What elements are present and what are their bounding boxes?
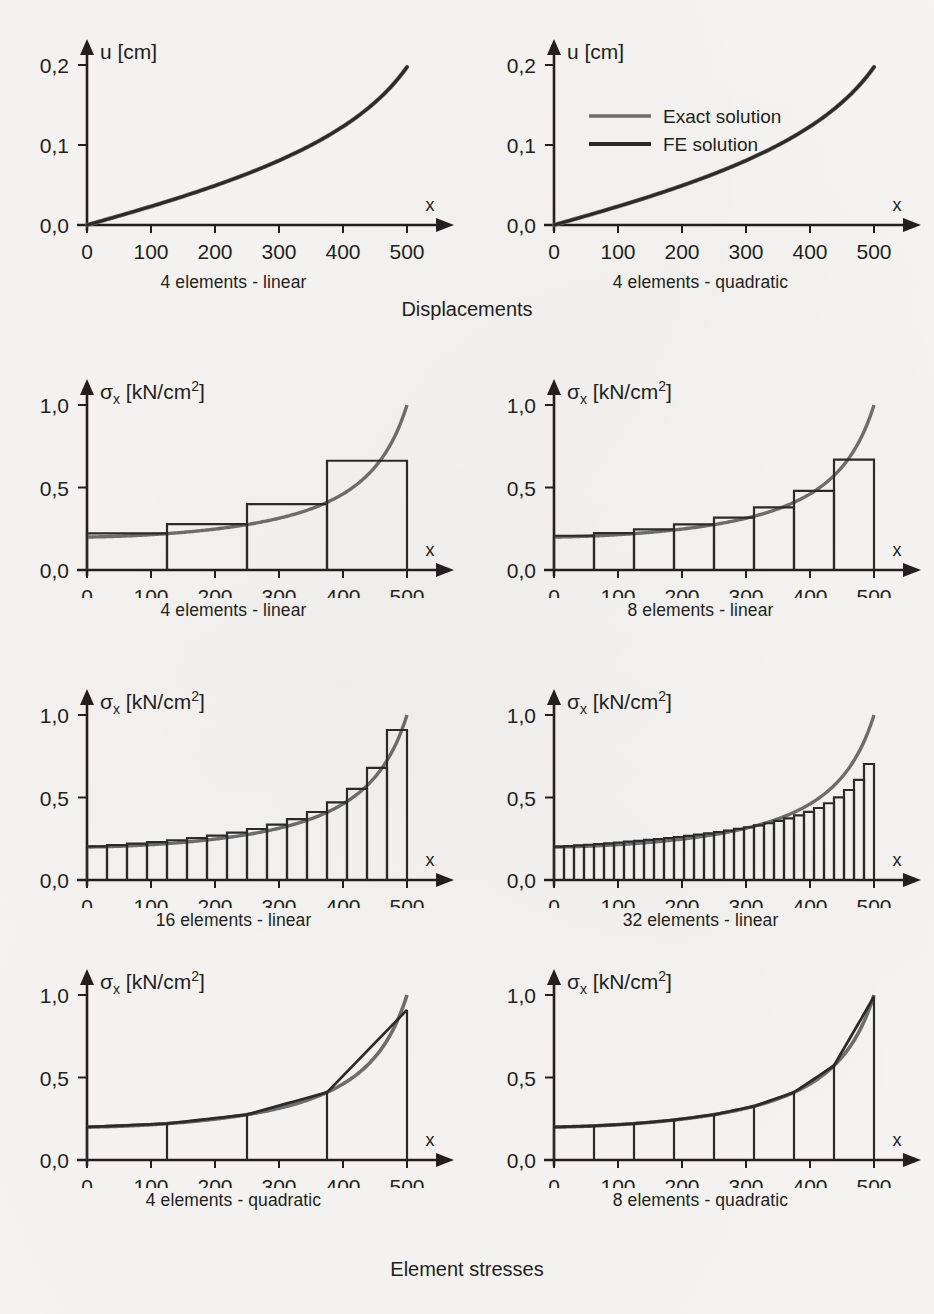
x-tick-label: 0 <box>548 585 560 598</box>
legend: Exact solutionFE solution <box>589 106 781 155</box>
panel-sigma-32-linear: 0100200300400500x0,00,51,0σx [kN/cm2] <box>467 668 934 908</box>
curves <box>87 67 407 225</box>
fe-solution-curve <box>87 1010 407 1127</box>
fe-element-step <box>784 818 794 880</box>
fe-element-step <box>594 844 604 880</box>
x-axis-title: x <box>426 195 435 215</box>
x-tick-label: 100 <box>133 585 168 598</box>
figure-root: 0100200300400500x0,00,10,2u [cm] 0100200… <box>0 0 934 1314</box>
fe-element-step <box>724 831 734 880</box>
x-tick-label: 500 <box>856 585 891 598</box>
y-tick-label: 0,0 <box>40 214 69 237</box>
y-tick-label: 0,2 <box>507 54 536 77</box>
fe-element-step <box>834 797 844 880</box>
panel-sigma-4-linear: 0100200300400500x0,00,51,0σx [kN/cm2] <box>0 358 467 598</box>
y-tick-label: 0,1 <box>507 134 536 157</box>
plot-content <box>87 995 407 1160</box>
x-tick-label: 200 <box>664 240 699 262</box>
fe-element-step <box>674 837 684 880</box>
x-tick-label: 400 <box>792 240 827 262</box>
x-axis-title: x <box>426 850 435 870</box>
x-axis-arrow <box>436 1153 454 1167</box>
fe-element-step <box>207 836 227 880</box>
fe-element-step <box>794 815 804 880</box>
exact-solution-curve <box>87 67 407 225</box>
x-tick-label: 200 <box>664 1175 699 1188</box>
section-title-displacements: Displacements <box>0 298 934 321</box>
fe-element-step <box>794 491 834 570</box>
fe-element-step <box>824 803 834 880</box>
fe-element-step <box>147 842 167 880</box>
fe-element-step <box>694 835 704 880</box>
y-tick-label: 0,0 <box>507 214 536 237</box>
x-axis-arrow <box>903 873 921 887</box>
y-axis-arrow <box>547 969 561 985</box>
fe-element-step <box>654 839 664 880</box>
panel-sigma-4-quadratic: 0100200300400500x0,00,51,0σx [kN/cm2] <box>0 948 467 1188</box>
y-axis-title-text: σx [kN/cm2] <box>100 968 205 997</box>
fe-element-step <box>247 829 267 880</box>
x-tick-label: 300 <box>728 240 763 262</box>
y-axis-title-text: σx [kN/cm2] <box>100 688 205 717</box>
y-axis-arrow <box>547 39 561 55</box>
x-tick-label: 400 <box>792 1175 827 1188</box>
y-tick-label: 1,0 <box>40 984 69 1007</box>
fe-element-step <box>614 843 624 880</box>
y-axis-arrow <box>80 689 94 705</box>
x-tick-label: 200 <box>197 1175 232 1188</box>
y-axis-title: σx [kN/cm2] <box>100 688 205 717</box>
y-axis-title: u [cm] <box>100 40 157 63</box>
y-tick-label: 0,1 <box>40 134 69 157</box>
x-tick-label: 300 <box>261 895 296 908</box>
x-tick-label: 400 <box>325 895 360 908</box>
fe-element-step <box>864 764 874 880</box>
x-axis-arrow <box>903 218 921 232</box>
fe-element-step <box>844 790 854 880</box>
fe-element-step <box>604 843 614 880</box>
x-axis-arrow <box>436 218 454 232</box>
y-axis-title: σx [kN/cm2] <box>100 968 205 997</box>
exact-solution-curve <box>554 715 874 847</box>
x-tick-label: 0 <box>548 895 560 908</box>
x-tick-label: 300 <box>261 585 296 598</box>
y-axis-arrow <box>547 379 561 395</box>
fe-element-step <box>714 832 724 880</box>
x-tick-label: 0 <box>548 240 560 262</box>
plot-content <box>554 405 874 570</box>
y-tick-label: 0,5 <box>507 1067 536 1090</box>
fe-element-step <box>804 812 814 880</box>
y-axis-title: u [cm] <box>567 40 624 63</box>
fe-element-step <box>744 827 754 880</box>
fe-element-step <box>554 536 594 570</box>
y-tick-label: 1,0 <box>507 704 536 727</box>
x-tick-label: 500 <box>389 585 424 598</box>
legend-label-exact: Exact solution <box>663 106 781 127</box>
exact-solution-curve <box>554 995 874 1127</box>
y-tick-label: 0,0 <box>507 1149 536 1172</box>
x-tick-label: 500 <box>856 240 891 262</box>
x-tick-label: 0 <box>81 895 93 908</box>
fe-element-step <box>227 833 247 880</box>
x-tick-label: 500 <box>389 1175 424 1188</box>
x-tick-label: 500 <box>389 240 424 262</box>
fe-element-step <box>564 846 574 880</box>
fe-element-step <box>247 504 327 570</box>
x-tick-label: 500 <box>856 1175 891 1188</box>
fe-element-step <box>554 847 564 880</box>
x-axis-arrow <box>436 563 454 577</box>
x-tick-label: 400 <box>792 585 827 598</box>
y-axis-title-text: σx [kN/cm2] <box>100 378 205 407</box>
x-tick-label: 300 <box>261 1175 296 1188</box>
fe-element-step <box>834 460 874 570</box>
plot-content <box>87 405 407 570</box>
y-tick-label: 0,5 <box>40 1067 69 1090</box>
x-tick-label: 0 <box>548 1175 560 1188</box>
fe-element-step <box>187 838 207 880</box>
y-axis-arrow <box>80 969 94 985</box>
fe-element-step <box>854 780 864 880</box>
caption-panel-6: 4 elements - quadratic <box>0 1190 467 1211</box>
fe-element-step <box>734 829 744 880</box>
y-tick-label: 1,0 <box>40 394 69 417</box>
y-tick-label: 0,0 <box>507 559 536 582</box>
x-axis-title: x <box>893 1130 902 1150</box>
